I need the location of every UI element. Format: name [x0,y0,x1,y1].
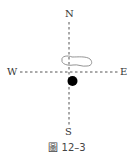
west-label: W [7,67,17,77]
figure-caption: 圖 12–3 [0,139,134,154]
north-label: N [65,9,74,19]
south-label: S [65,127,72,137]
cloud-shape [62,56,92,66]
east-label: E [120,67,127,77]
black-dot [68,76,78,86]
